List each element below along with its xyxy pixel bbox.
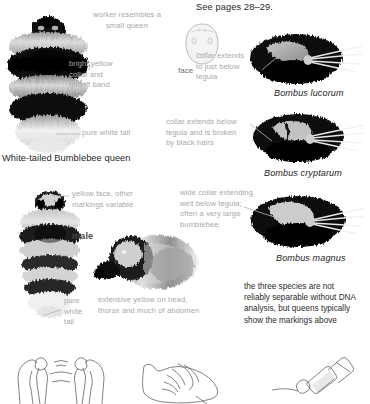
male-bumblebee-lateral-photo (86, 228, 202, 296)
queen-caption: White-tailed Bumblebee queen (2, 153, 131, 163)
page-header-reference: See pages 28–29. (196, 2, 273, 12)
face-label: face (178, 66, 193, 75)
antenna-segment-line-drawing (272, 350, 358, 404)
male-tail-note: pure white tail (64, 296, 94, 328)
field-guide-page: See pages 28–29. (0, 0, 370, 404)
genitalia-line-drawing (6, 348, 116, 404)
queen-worker-note: worker resembles a small queen (68, 10, 186, 31)
male-lateral-note: extensive yellow on head, thorax and muc… (98, 295, 228, 316)
bombus-cryptarum-note: collar extends below tegula and is broke… (166, 117, 258, 149)
bombus-lucorum-species-name: Bombus lucorum (274, 88, 344, 98)
gonostylus-line-drawing (140, 352, 232, 404)
queen-collar-note: bright yellow collar and midriff band (69, 59, 139, 91)
bombus-cryptarum-leader-line (250, 122, 276, 144)
dna-separability-summary: the three species are not reliably separ… (244, 281, 370, 326)
bombus-magnus-leader-line (244, 205, 284, 223)
bombus-cryptarum-species-name: Bombus cryptarum (264, 168, 342, 178)
male-face-note: yellow face, other markings variable (72, 189, 160, 210)
queen-tail-note: pure white tail (82, 128, 130, 139)
bombus-lucorum-note: collar extends to just below tegula (196, 51, 268, 83)
male-face-leader-line (52, 191, 72, 201)
male-tail-leader-line (44, 306, 64, 318)
bombus-lucorum-leader-line (262, 50, 286, 72)
queen-tail-leader-line (56, 128, 84, 140)
bombus-magnus-species-name: Bombus magnus (276, 253, 346, 263)
